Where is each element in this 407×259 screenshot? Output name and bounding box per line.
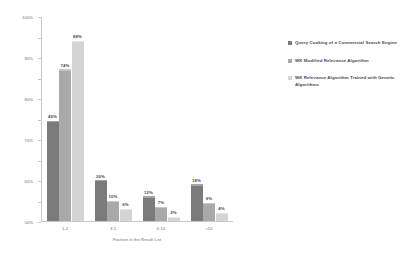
bar-body xyxy=(203,204,215,221)
bar-body xyxy=(47,122,59,221)
bar-body xyxy=(72,42,84,221)
plot-area: 100%90%80%70%60%50%40%30%20%10%0% 49%74%… xyxy=(41,17,233,222)
x-axis-line xyxy=(41,221,233,222)
y-axis-tick: 10% xyxy=(38,202,41,203)
bar-value-label: 88% xyxy=(73,34,82,39)
bar-body xyxy=(107,202,119,221)
y-axis-line xyxy=(41,17,42,222)
y-axis-tick: 80% xyxy=(38,58,41,59)
bar-body xyxy=(120,210,132,221)
y-axis-tick-label: 80% xyxy=(25,97,34,102)
bar-group: 12%7%2% xyxy=(143,17,180,221)
bar-value-label: 10% xyxy=(109,194,118,199)
bar[interactable]: 9% xyxy=(203,203,215,221)
legend-item-label: Query Cooking of a Commercial Search Eng… xyxy=(295,40,397,45)
y-axis-tick: 100% xyxy=(38,17,41,18)
y-axis-tick: 70% xyxy=(38,79,41,80)
bar-value-label: 20% xyxy=(96,174,105,179)
bar-value-label: 74% xyxy=(61,63,70,68)
bar-value-label: 9% xyxy=(206,196,212,201)
bar[interactable]: 7% xyxy=(155,207,167,221)
y-axis-tick-label: 90% xyxy=(25,56,34,61)
bar[interactable]: 2% xyxy=(168,217,180,221)
bar-body xyxy=(59,71,71,221)
chart-legend: Query Cooking of a Commercial Search Eng… xyxy=(288,40,400,99)
x-axis-title: Position in the Result List xyxy=(41,237,233,242)
legend-item[interactable]: WK Relevance Algorithm Trained with Gene… xyxy=(288,75,400,88)
bar[interactable]: 10% xyxy=(107,201,119,222)
bar-body xyxy=(155,208,167,221)
bar-body xyxy=(143,198,155,221)
legend-swatch-icon xyxy=(288,76,292,80)
bar-group: 49%74%88% xyxy=(47,17,84,221)
bar-group: 18%9%4% xyxy=(191,17,228,221)
legend-swatch-icon xyxy=(288,41,292,45)
bar-value-label: 2% xyxy=(170,210,176,215)
y-axis-tick: 60% xyxy=(38,99,41,100)
bar-value-label: 6% xyxy=(122,202,128,207)
bar-chart: 100%90%80%70%60%50%40%30%20%10%0% 49%74%… xyxy=(0,0,407,259)
x-axis-category-label: 3-5 xyxy=(110,226,116,231)
legend-item[interactable]: Query Cooking of a Commercial Search Eng… xyxy=(288,40,400,47)
y-axis-tick: 0% xyxy=(38,222,41,223)
legend-item-label: WK Relevance Algorithm Trained with Gene… xyxy=(295,75,395,87)
bar-value-label: 12% xyxy=(144,190,153,195)
bar-value-label: 4% xyxy=(218,206,224,211)
bar-body xyxy=(95,181,107,221)
y-axis-tick: 20% xyxy=(38,181,41,182)
y-axis-tick: 40% xyxy=(38,140,41,141)
bar[interactable]: 12% xyxy=(143,196,155,221)
bar[interactable]: 74% xyxy=(59,69,71,221)
bar[interactable]: 4% xyxy=(216,213,228,221)
bar-value-label: 49% xyxy=(48,114,57,119)
x-axis-category-label: >10 xyxy=(205,226,212,231)
legend-swatch-icon xyxy=(288,59,292,63)
legend-item[interactable]: WK Modified Relevance Algorithm xyxy=(288,58,400,65)
bar[interactable]: 20% xyxy=(95,180,107,221)
y-axis-tick: 30% xyxy=(38,161,41,162)
y-axis-tick-label: 60% xyxy=(25,179,34,184)
bar-value-label: 18% xyxy=(192,178,201,183)
x-axis-category-label: 6-10 xyxy=(157,226,166,231)
bar[interactable]: 6% xyxy=(120,209,132,221)
y-axis-tick: 90% xyxy=(38,38,41,39)
y-axis-tick: 50% xyxy=(38,120,41,121)
bar-body xyxy=(216,214,228,221)
bar-group: 20%10%6% xyxy=(95,17,132,221)
y-axis-tick-label: 50% xyxy=(25,220,34,225)
bar[interactable]: 18% xyxy=(191,184,203,221)
x-axis-category-label: 1-2 xyxy=(62,226,68,231)
y-axis-tick-label: 100% xyxy=(22,15,33,20)
legend-item-label: WK Modified Relevance Algorithm xyxy=(295,58,369,63)
bar[interactable]: 49% xyxy=(47,121,59,221)
bar-body xyxy=(168,218,180,221)
bar-value-label: 7% xyxy=(158,200,164,205)
bar-body xyxy=(191,186,203,222)
bar[interactable]: 88% xyxy=(72,41,84,221)
y-axis-tick-label: 70% xyxy=(25,138,34,143)
